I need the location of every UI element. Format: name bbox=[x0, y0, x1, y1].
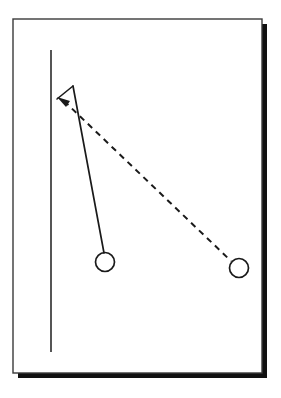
diagram-canvas bbox=[0, 0, 281, 398]
pendulum-diagram-figure bbox=[0, 0, 281, 398]
